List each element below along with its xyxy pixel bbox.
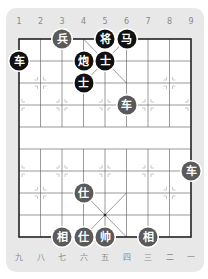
piece-red-elephant[interactable]: 相: [53, 228, 72, 247]
file-label-five: 五: [98, 253, 112, 263]
piece-black-cannon[interactable]: 炮: [74, 52, 93, 71]
piece-black-advisor[interactable]: 士: [74, 74, 93, 93]
piece-black-general[interactable]: 将: [96, 30, 115, 49]
file-label-two: 二: [163, 253, 177, 263]
piece-red-general[interactable]: 帅: [96, 228, 115, 247]
diagram-caption: [0, 272, 208, 279]
piece-black-horse[interactable]: 马: [117, 30, 136, 49]
piece-red-chariot[interactable]: 车: [182, 162, 201, 181]
piece-red-elephant[interactable]: 相: [139, 228, 158, 247]
file-label-eight: 八: [34, 253, 48, 263]
file-label-nine: 九: [12, 253, 26, 263]
file-label-seven: 七: [55, 253, 69, 263]
piece-black-chariot[interactable]: 车: [10, 52, 29, 71]
piece-red-soldier[interactable]: 兵: [53, 30, 72, 49]
palace-center-dot: [104, 214, 107, 217]
piece-red-advisor[interactable]: 仕: [74, 228, 93, 247]
piece-red-chariot[interactable]: 车: [117, 96, 136, 115]
piece-red-advisor[interactable]: 仕: [74, 184, 93, 203]
piece-black-advisor[interactable]: 士: [96, 52, 115, 71]
file-label-three: 三: [141, 253, 155, 263]
file-label-six: 六: [77, 253, 91, 263]
file-label-one: 一: [184, 253, 198, 263]
file-label-four: 四: [120, 253, 134, 263]
